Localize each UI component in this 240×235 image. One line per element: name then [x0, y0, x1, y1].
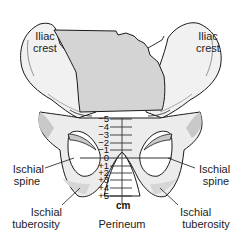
pelvis-diagram: Iliac crest Iliac crest Ischial spine Is… — [0, 0, 240, 235]
ischial-spine-right-label: Ischial spine — [199, 163, 233, 187]
iliac-crest-right-label: Iliac crest — [191, 30, 225, 54]
scale-unit-label: cm — [116, 200, 130, 211]
ischial-tuberosity-right-label: Ischial tuberosity — [180, 206, 232, 230]
perineum-label: Perineum — [92, 218, 152, 230]
iliac-crest-left-label: Iliac crest — [28, 30, 62, 54]
station-plus-5: +5 — [93, 192, 109, 200]
ischial-tuberosity-left-label: Ischial tuberosity — [10, 206, 62, 230]
ischial-spine-left-label: Ischial spine — [10, 163, 44, 187]
